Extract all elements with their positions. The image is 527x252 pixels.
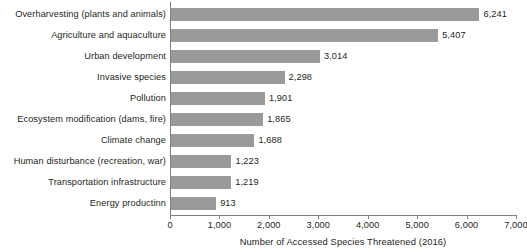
bar-track: 3,014: [171, 46, 527, 67]
category-label: Overharvesting (plants and animals): [0, 9, 166, 20]
bar-value-label: 3,014: [324, 51, 347, 62]
bar-track: 2,298: [171, 67, 527, 88]
bar-value-label: 1,219: [235, 177, 258, 188]
bar: [171, 176, 231, 189]
bar-row: Transportation infrastructure1,219: [0, 172, 527, 193]
bar: [171, 29, 438, 42]
x-tick-mark: [170, 215, 171, 219]
x-tick-mark: [516, 215, 517, 219]
bar-track: 1,901: [171, 88, 527, 109]
bar: [171, 92, 265, 105]
x-tick-label: 4,000: [356, 220, 379, 231]
bar-row: Energy productinn913: [0, 193, 527, 214]
x-tick-label: 2,000: [257, 220, 280, 231]
bar-row: Agriculture and aquaculture5,407: [0, 25, 527, 46]
category-label: Climate change: [0, 135, 166, 146]
bar-track: 1,865: [171, 109, 527, 130]
bar-track: 1,223: [171, 151, 527, 172]
bar-row: Climate change1,688: [0, 130, 527, 151]
bar-row: Ecosystem modification (dams, fire)1,865: [0, 109, 527, 130]
x-axis-title: Number of Accessed Species Threatened (2…: [170, 236, 516, 248]
x-tick-label: 3,000: [307, 220, 330, 231]
bar-row: Invasive species2,298: [0, 67, 527, 88]
bar-value-label: 1,223: [235, 156, 258, 167]
bar-value-label: 1,688: [258, 135, 281, 146]
bar-value-label: 5,407: [442, 30, 465, 41]
bar-track: 1,688: [171, 130, 527, 151]
x-tick-label: 0: [167, 220, 172, 231]
category-label: Pollution: [0, 93, 166, 104]
x-tick-label: 7,000: [504, 220, 527, 231]
bar-track: 913: [171, 193, 527, 214]
x-tick-label: 1,000: [208, 220, 231, 231]
bar-value-label: 6,241: [483, 9, 506, 20]
x-tick-mark: [467, 215, 468, 219]
x-axis-ticks: 01,0002,0003,0004,0005,0006,0007,000: [170, 215, 516, 235]
x-tick-mark: [417, 215, 418, 219]
bar-chart: Overharvesting (plants and animals)6,241…: [0, 0, 527, 252]
bar-rows: Overharvesting (plants and animals)6,241…: [0, 4, 527, 214]
bar-value-label: 1,901: [269, 93, 292, 104]
bar-track: 6,241: [171, 4, 527, 25]
category-label: Urban development: [0, 51, 166, 62]
bar: [171, 197, 216, 210]
x-tick-mark: [219, 215, 220, 219]
bar: [171, 155, 231, 168]
y-axis-line: [170, 2, 171, 215]
category-label: Invasive species: [0, 72, 166, 83]
x-tick-label: 6,000: [455, 220, 478, 231]
bar: [171, 8, 479, 21]
bar-value-label: 1,865: [267, 114, 290, 125]
x-tick-mark: [269, 215, 270, 219]
category-label: Ecosystem modification (dams, fire): [0, 114, 166, 125]
category-label: Energy productinn: [0, 198, 166, 209]
bar-row: Overharvesting (plants and animals)6,241: [0, 4, 527, 25]
bar-row: Urban development3,014: [0, 46, 527, 67]
bar-value-label: 2,298: [289, 72, 312, 83]
bar-value-label: 913: [220, 198, 236, 209]
x-tick-mark: [318, 215, 319, 219]
bar-row: Human disturbance (recreation, war)1,223: [0, 151, 527, 172]
bar: [171, 113, 263, 126]
bar: [171, 71, 285, 84]
category-label: Agriculture and aquaculture: [0, 30, 166, 41]
bar: [171, 134, 254, 147]
x-tick-mark: [368, 215, 369, 219]
bar-row: Pollution1,901: [0, 88, 527, 109]
bar-track: 5,407: [171, 25, 527, 46]
bar: [171, 50, 320, 63]
category-label: Human disturbance (recreation, war): [0, 156, 166, 167]
plot-area: Overharvesting (plants and animals)6,241…: [0, 0, 527, 215]
category-label: Transportation infrastructure: [0, 177, 166, 188]
bar-track: 1,219: [171, 172, 527, 193]
x-tick-label: 5,000: [405, 220, 428, 231]
